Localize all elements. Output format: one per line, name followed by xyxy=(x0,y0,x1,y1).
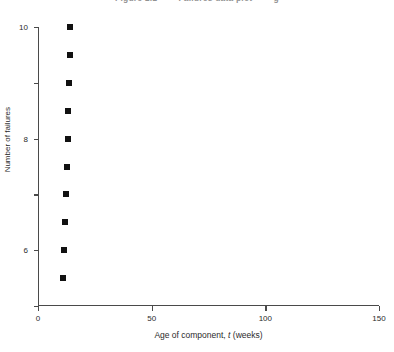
y-tick-mark: 8 xyxy=(34,83,39,84)
data-point xyxy=(65,136,71,142)
y-axis-title-text: Number of failures xyxy=(3,107,12,172)
data-point xyxy=(60,275,66,281)
data-point xyxy=(65,108,71,114)
x-tick-label: 50 xyxy=(147,314,156,323)
y-tick-mark: 6 xyxy=(34,139,39,140)
y-tick-mark: 10 xyxy=(34,27,39,28)
y-tick-label: 10 xyxy=(19,23,28,32)
x-tick-mark xyxy=(152,306,153,311)
x-axis-title-variable: t xyxy=(228,330,230,340)
data-point xyxy=(63,191,69,197)
plot-area: 0246810 050100150 Age of component, t (w… xyxy=(38,27,379,306)
x-tick-mark xyxy=(379,306,380,311)
data-point xyxy=(67,52,73,58)
x-axis-line xyxy=(38,305,379,306)
data-point xyxy=(67,24,73,30)
figure-container: Figure 1.1 Failures data plot g Number o… xyxy=(0,0,394,352)
figure-caption: Figure 1.1 Failures data plot g xyxy=(0,0,394,3)
x-axis-title-prefix: Age of component, xyxy=(154,330,225,340)
y-tick-mark: 4 xyxy=(34,194,39,195)
y-axis-line xyxy=(38,27,39,306)
x-axis-title-suffix: (weeks) xyxy=(233,330,263,340)
figure-caption-label: Figure 1.1 xyxy=(115,0,157,3)
y-tick-label: 8 xyxy=(24,134,28,143)
y-tick-mark: 2 xyxy=(34,250,39,251)
x-tick-label: 100 xyxy=(259,314,272,323)
x-axis-title: Age of component, t (weeks) xyxy=(38,330,379,340)
x-tick-mark xyxy=(265,306,266,311)
y-tick-label: 6 xyxy=(24,246,28,255)
data-point xyxy=(64,164,70,170)
figure-caption-note: g xyxy=(273,0,278,3)
x-tick-mark xyxy=(38,306,39,311)
data-point xyxy=(62,219,68,225)
data-point xyxy=(61,247,67,253)
x-tick-label: 0 xyxy=(36,314,40,323)
data-point xyxy=(66,80,72,86)
figure-caption-title: Failures data plot xyxy=(178,0,252,3)
y-axis-title: Number of failures xyxy=(3,0,12,279)
x-tick-label: 150 xyxy=(372,314,385,323)
